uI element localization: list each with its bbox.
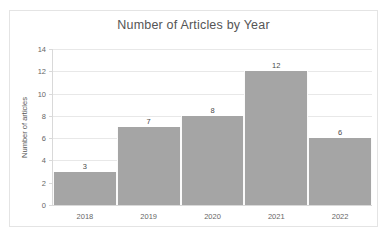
bar-slot: 3 bbox=[53, 49, 117, 205]
chart-title: Number of Articles by Year bbox=[10, 18, 377, 32]
bar-slot: 6 bbox=[308, 49, 372, 205]
bar[interactable] bbox=[308, 138, 372, 205]
y-tick-label: 8 bbox=[42, 111, 46, 120]
bar[interactable] bbox=[117, 127, 181, 205]
bar[interactable] bbox=[244, 71, 308, 205]
x-axis-labels: 20182019202020212022 bbox=[53, 212, 372, 221]
x-tick-label: 2018 bbox=[53, 212, 117, 221]
bar-value-label: 12 bbox=[244, 61, 308, 70]
plot-area-wrapper: 02468101214 378126 20182019202020212022 bbox=[53, 49, 372, 205]
y-axis-title-label: Number of articles bbox=[20, 97, 29, 158]
bar-slot: 8 bbox=[181, 49, 245, 205]
x-tick-label: 2022 bbox=[308, 212, 372, 221]
y-axis-title: Number of articles bbox=[18, 49, 30, 205]
y-tick-label: 14 bbox=[38, 45, 46, 54]
bar-value-label: 6 bbox=[308, 128, 372, 137]
bar-value-label: 8 bbox=[181, 106, 245, 115]
bar-slot: 7 bbox=[117, 49, 181, 205]
y-tick-label: 10 bbox=[38, 89, 46, 98]
bar-slot: 12 bbox=[244, 49, 308, 205]
chart-frame: Number of Articles by Year Number of art… bbox=[9, 10, 378, 227]
x-tick-label: 2021 bbox=[244, 212, 308, 221]
bar[interactable] bbox=[181, 116, 245, 205]
y-tick-label: 6 bbox=[42, 134, 46, 143]
y-tick-label: 12 bbox=[38, 67, 46, 76]
bars-layer: 378126 bbox=[53, 49, 372, 205]
x-tick-label: 2020 bbox=[181, 212, 245, 221]
x-tick-label: 2019 bbox=[117, 212, 181, 221]
y-tick-label: 2 bbox=[42, 178, 46, 187]
bar-value-label: 7 bbox=[117, 117, 181, 126]
y-tick-label: 4 bbox=[42, 156, 46, 165]
bar-value-label: 3 bbox=[53, 162, 117, 171]
x-axis-line bbox=[52, 205, 372, 206]
bar[interactable] bbox=[53, 172, 117, 205]
y-tick-label: 0 bbox=[42, 201, 46, 210]
